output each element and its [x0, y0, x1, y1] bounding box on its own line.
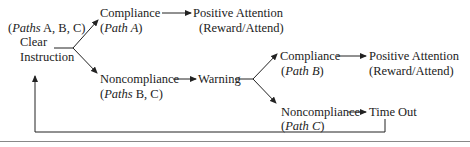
- paths-bc-note: (Paths B, C): [100, 87, 163, 101]
- behavior-flow-diagram: (Paths A, B, C) Clear Instruction Compli…: [0, 0, 470, 147]
- positive-attention-b-label: Positive Attention: [369, 49, 459, 63]
- positive-attention-a-label: Positive Attention: [193, 6, 283, 20]
- noncompliance-c-label: Noncompliance: [281, 105, 360, 119]
- branch-arrow-noncompliance-c: [253, 79, 276, 103]
- path-a-note: (Path A): [100, 21, 143, 35]
- compliance-a-label: Compliance: [100, 6, 160, 20]
- warning-label: Warning: [198, 72, 241, 86]
- compliance-b-label: Compliance: [280, 49, 340, 63]
- instruction-label: Instruction: [20, 50, 74, 64]
- noncompliance-bc-label: Noncompliance: [100, 72, 179, 86]
- paths-abc-note: (Paths A, B, C): [8, 21, 85, 35]
- time-out-label: Time Out: [369, 105, 417, 119]
- reward-attend-a-label: (Reward/Attend): [199, 21, 284, 35]
- path-c-note: (Path C): [281, 119, 324, 133]
- reward-attend-b-label: (Reward/Attend): [369, 64, 454, 78]
- branch-arrow-noncompliance: [73, 48, 97, 73]
- branch-arrow-compliance-b: [253, 54, 277, 79]
- clear-label: Clear: [20, 35, 47, 49]
- path-b-note: (Path B): [281, 64, 324, 78]
